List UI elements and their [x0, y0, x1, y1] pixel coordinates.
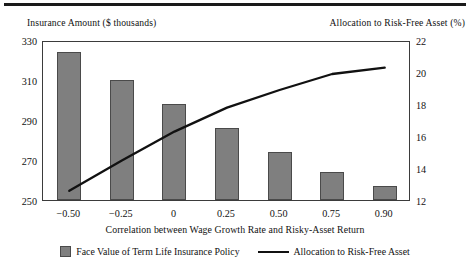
left-tick-label: 330	[22, 36, 37, 47]
top-rule-divider	[4, 3, 466, 6]
right-tick-label: 20	[416, 68, 426, 79]
x-tick-label: 0.25	[217, 208, 235, 219]
chart-figure: Insurance Amount ($ thousands) Allocatio…	[0, 0, 470, 275]
x-axis-title: Correlation between Wage Growth Rate and…	[0, 224, 470, 235]
right-tick-label: 12	[416, 196, 426, 207]
plot-area	[42, 41, 410, 201]
x-tick-label: −0.50	[56, 208, 80, 219]
line-series	[43, 42, 411, 202]
right-tick-label: 22	[416, 36, 426, 47]
right-tick-label: 18	[416, 100, 426, 111]
x-tick-label: 0.75	[322, 208, 340, 219]
legend-label: Allocation to Risk-Free Asset	[294, 246, 410, 257]
legend-line-swatch-icon	[258, 251, 289, 253]
x-tick-label: 0.50	[270, 208, 288, 219]
legend-entry: Allocation to Risk-Free Asset	[258, 246, 410, 257]
left-axis-title: Insurance Amount ($ thousands)	[27, 17, 156, 28]
legend-label: Face Value of Term Life Insurance Policy	[76, 246, 239, 257]
left-tick-label: 310	[22, 76, 37, 87]
legend-entry: Face Value of Term Life Insurance Policy	[60, 246, 239, 257]
plot-inner	[43, 42, 409, 200]
left-tick-label: 270	[22, 156, 37, 167]
x-tick-label: 0.90	[375, 208, 393, 219]
x-tick-label: 0	[171, 208, 176, 219]
chart-legend: Face Value of Term Life Insurance Policy…	[0, 246, 470, 257]
left-tick-label: 290	[22, 116, 37, 127]
right-tick-label: 14	[416, 164, 426, 175]
right-tick-label: 16	[416, 132, 426, 143]
x-tick-label: −0.25	[109, 208, 133, 219]
legend-bar-swatch-icon	[60, 246, 71, 257]
left-tick-label: 250	[22, 196, 37, 207]
risk-free-allocation-line	[69, 68, 384, 191]
